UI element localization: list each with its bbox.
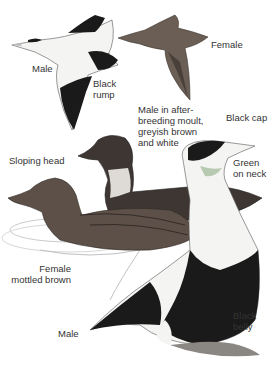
- label-male-moult: Male in after- breeding moult, greyish b…: [138, 104, 203, 148]
- label-black-belly: Black belly: [233, 310, 256, 332]
- label-female-mottled: Female mottled brown: [9, 263, 71, 285]
- label-male-flight: Male: [32, 63, 53, 74]
- label-male-swimming: Male: [58, 328, 79, 339]
- label-female-flight: Female: [211, 39, 243, 50]
- label-sloping-head: Sloping head: [9, 155, 64, 166]
- female-flying-bird: [118, 15, 208, 100]
- label-black-cap: Black cap: [226, 112, 267, 123]
- label-green-on-neck: Green on neck: [233, 157, 266, 179]
- male-flying-bird: [10, 15, 118, 130]
- label-black-rump: Black rump: [93, 78, 116, 100]
